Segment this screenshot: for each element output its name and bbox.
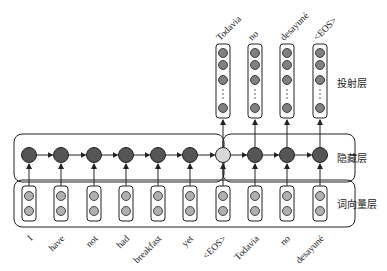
projection-node bbox=[316, 61, 325, 70]
embedding-node bbox=[283, 207, 292, 216]
projection-node bbox=[316, 76, 325, 85]
ellipsis-dot bbox=[286, 93, 287, 94]
projection-node bbox=[251, 104, 260, 113]
projection-node bbox=[283, 76, 292, 85]
projection-node bbox=[251, 61, 260, 70]
embedding-node bbox=[90, 207, 99, 216]
embedding-node bbox=[25, 207, 34, 216]
embedding-node bbox=[283, 192, 292, 201]
embedding-node bbox=[186, 192, 195, 201]
projection-node bbox=[251, 49, 260, 58]
projection-node bbox=[283, 104, 292, 113]
projection-layer-label: 投射层 bbox=[337, 75, 367, 90]
embedding-node bbox=[251, 192, 260, 201]
ellipsis-dot bbox=[286, 97, 287, 98]
hidden-node bbox=[54, 148, 69, 163]
hidden-node bbox=[248, 148, 263, 163]
embedding-node bbox=[57, 207, 66, 216]
embedding-node bbox=[219, 192, 228, 201]
embedding-node bbox=[154, 207, 163, 216]
ellipsis-dot bbox=[286, 89, 287, 90]
projection-node bbox=[219, 104, 228, 113]
ellipsis-dot bbox=[222, 97, 223, 98]
diagram-canvas bbox=[0, 0, 387, 271]
embedding-node bbox=[154, 192, 163, 201]
projection-node bbox=[219, 61, 228, 70]
embedding-node bbox=[90, 192, 99, 201]
projection-node bbox=[219, 76, 228, 85]
projection-node bbox=[251, 76, 260, 85]
ellipsis-dot bbox=[319, 93, 320, 94]
projection-node bbox=[219, 49, 228, 58]
ellipsis-dot bbox=[222, 93, 223, 94]
hidden-node bbox=[151, 148, 166, 163]
ellipsis-dot bbox=[319, 89, 320, 90]
projection-node bbox=[316, 49, 325, 58]
ellipsis-dot bbox=[254, 93, 255, 94]
hidden-node bbox=[119, 148, 134, 163]
hidden-node bbox=[183, 148, 198, 163]
hidden-node bbox=[216, 148, 231, 163]
hidden-layer-label: 隐藏层 bbox=[337, 150, 367, 165]
embedding-node bbox=[122, 192, 131, 201]
ellipsis-dot bbox=[254, 89, 255, 90]
embedding-node bbox=[251, 207, 260, 216]
hidden-node bbox=[280, 148, 295, 163]
embedding-node bbox=[25, 192, 34, 201]
embedding-node bbox=[186, 207, 195, 216]
ellipsis-dot bbox=[254, 97, 255, 98]
embedding-node bbox=[219, 207, 228, 216]
ellipsis-dot bbox=[222, 89, 223, 90]
projection-node bbox=[316, 104, 325, 113]
embedding-node bbox=[316, 207, 325, 216]
embedding-node bbox=[122, 207, 131, 216]
embedding-node bbox=[57, 192, 66, 201]
embedding-node bbox=[316, 192, 325, 201]
projection-node bbox=[283, 61, 292, 70]
embedding-layer-box bbox=[14, 180, 355, 227]
hidden-node bbox=[87, 148, 102, 163]
ellipsis-dot bbox=[319, 97, 320, 98]
hidden-node bbox=[313, 148, 328, 163]
hidden-node bbox=[22, 148, 37, 163]
projection-node bbox=[283, 49, 292, 58]
embedding-layer-label: 词向量层 bbox=[337, 196, 377, 211]
